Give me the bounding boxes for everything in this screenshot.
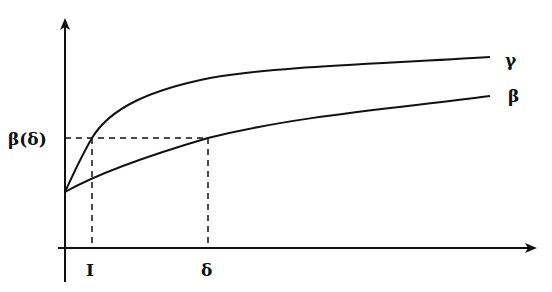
delta-label: δ: [201, 260, 212, 280]
diagram-canvas: γ β β(δ) I δ: [0, 0, 552, 292]
beta-delta-label: β(δ): [8, 129, 47, 149]
beta-curve: [65, 96, 490, 192]
beta-label: β: [508, 86, 519, 106]
I-label: I: [86, 260, 94, 280]
gamma-label: γ: [505, 50, 517, 70]
